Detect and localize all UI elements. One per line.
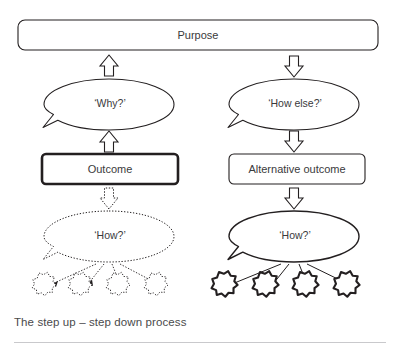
- burst-shape: [32, 272, 56, 295]
- down-arrow-icon: [285, 188, 303, 209]
- burst-shape: [68, 272, 92, 295]
- left-burst-arrowheads: [52, 278, 158, 287]
- arrow-alternative-to-how: [285, 188, 303, 209]
- down-arrow-icon-dotted: [100, 188, 118, 209]
- down-arrow-icon: [285, 56, 303, 77]
- bubble-how-else-label: ‘How else?’: [268, 97, 322, 109]
- burst-shape: [253, 271, 279, 297]
- right-burst-connectors: [232, 264, 348, 284]
- figure-caption: The step up – step down process: [14, 316, 187, 328]
- figure-root: Purpose ‘Why?’ Outcome ‘How?’: [0, 0, 397, 356]
- burst-shape: [212, 271, 238, 297]
- burst-shape: [293, 271, 319, 297]
- up-arrow-icon: [100, 55, 118, 76]
- alternative-outcome-label: Alternative outcome: [248, 163, 345, 175]
- bubble-why: ‘Why?’: [43, 79, 174, 130]
- arrow-purpose-to-how-else: [285, 56, 303, 77]
- burst-group-left: [32, 272, 168, 295]
- outcome-box: Outcome: [42, 154, 178, 184]
- bubble-how-right-label: ‘How?’: [279, 229, 311, 241]
- purpose-box: Purpose: [18, 20, 378, 50]
- alternative-outcome-box: Alternative outcome: [229, 154, 365, 184]
- bottom-rule: [14, 342, 386, 343]
- burst-shape: [106, 272, 130, 295]
- bubble-how-left-label: ‘How?’: [94, 229, 126, 241]
- burst-shape: [144, 272, 168, 295]
- step-up-step-down-diagram: Purpose ‘Why?’ Outcome ‘How?’: [0, 0, 397, 356]
- arrow-outcome-to-how: [100, 188, 118, 209]
- bubble-how-left: ‘How?’: [43, 211, 174, 262]
- down-arrow-icon: [285, 131, 303, 152]
- bubble-how-right: ‘How?’: [228, 211, 359, 262]
- arrow-outcome-to-why: [100, 131, 118, 152]
- left-burst-connectors: [52, 264, 158, 284]
- arrow-why-to-purpose: [100, 55, 118, 76]
- up-arrow-icon: [100, 131, 118, 152]
- purpose-label: Purpose: [178, 29, 219, 41]
- bubble-how-else: ‘How else?’: [228, 79, 359, 130]
- bubble-why-label: ‘Why?’: [94, 97, 126, 109]
- burst-group-right: [212, 271, 360, 297]
- arrow-how-else-to-alternative: [285, 131, 303, 152]
- outcome-label: Outcome: [88, 163, 133, 175]
- burst-shape: [334, 271, 360, 297]
